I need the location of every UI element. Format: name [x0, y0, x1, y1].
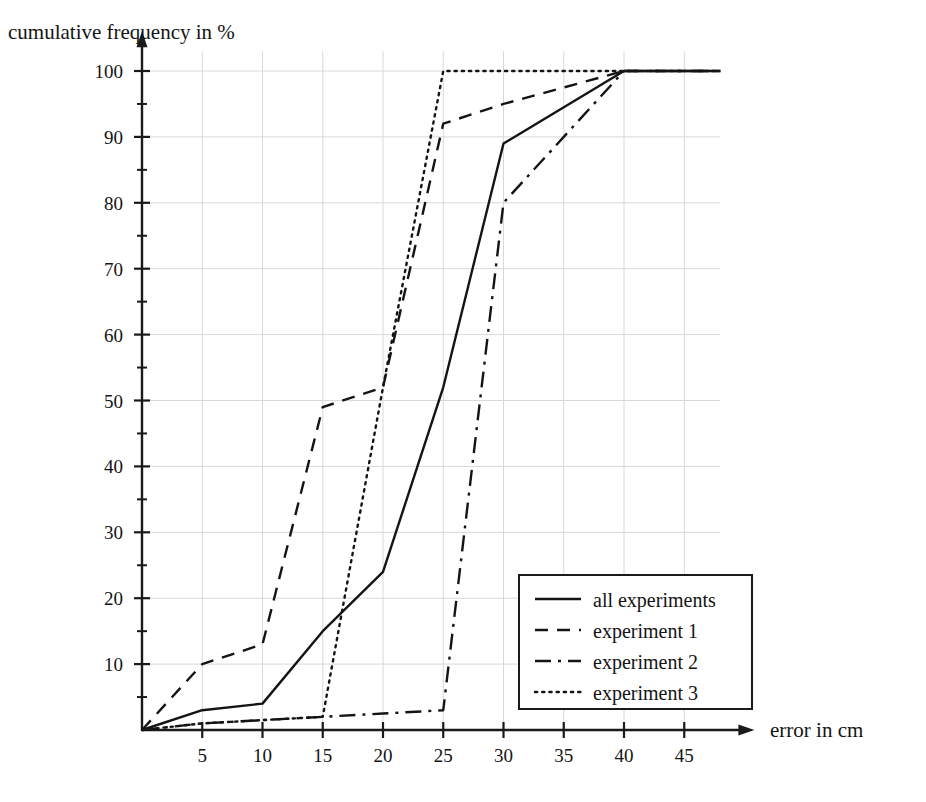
- y-tick-label: 100: [95, 61, 124, 82]
- y-tick-label: 90: [104, 127, 123, 148]
- y-tick-label: 60: [104, 325, 123, 346]
- y-tick-label: 10: [104, 654, 123, 675]
- x-axis-title: error in cm: [770, 718, 863, 743]
- x-tick-label: 25: [434, 745, 453, 766]
- legend-entry-label[interactable]: experiment 1: [593, 620, 698, 643]
- y-axis-title: cumulative frequency in %: [8, 20, 235, 45]
- legend-entry-label[interactable]: all experiments: [593, 589, 716, 612]
- y-tick-label: 80: [104, 193, 123, 214]
- y-tick-label: 20: [104, 588, 123, 609]
- x-tick-label: 35: [554, 745, 573, 766]
- y-tick-label: 30: [104, 522, 123, 543]
- y-tick-label: 70: [104, 259, 123, 280]
- y-tick-label: 50: [104, 391, 123, 412]
- chart-figure: cumulative frequency in % error in cm 10…: [0, 0, 926, 802]
- legend-entry-label[interactable]: experiment 2: [593, 651, 698, 674]
- x-tick-label: 15: [313, 745, 332, 766]
- x-tick-label: 30: [494, 745, 513, 766]
- x-tick-label: 45: [675, 745, 694, 766]
- x-tick-label: 20: [374, 745, 393, 766]
- legend[interactable]: all experimentsexperiment 1experiment 2e…: [519, 575, 752, 709]
- x-tick-label: 40: [615, 745, 634, 766]
- y-tick-label: 40: [104, 456, 123, 477]
- cumulative-frequency-plot: 10203040506070809010051015202530354045 a…: [0, 0, 926, 802]
- legend-entry-label[interactable]: experiment 3: [593, 682, 698, 705]
- x-tick-label: 5: [198, 745, 208, 766]
- x-tick-label: 10: [253, 745, 272, 766]
